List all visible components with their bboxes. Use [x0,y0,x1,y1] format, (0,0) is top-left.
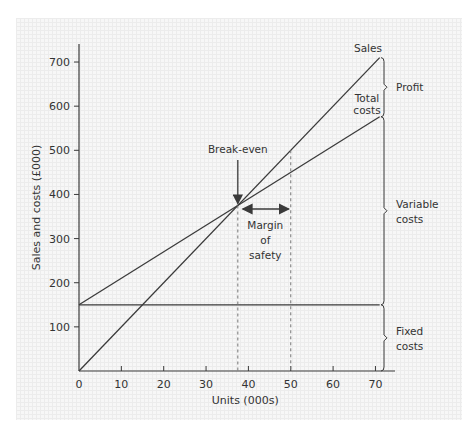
x-axis-label: Units (000s) [212,394,279,407]
y-tick-label: 400 [49,188,70,201]
y-tick-label: 200 [49,277,70,290]
y-tick-label: 300 [49,233,70,246]
total-costs-label: Total [354,92,380,104]
x-tick-label: 40 [241,378,255,391]
brace-fixed [381,305,387,371]
x-tick-label: 10 [114,378,128,391]
brace-label-fixed: Fixed [396,325,423,337]
y-tick-label: 600 [49,100,70,113]
y-tick-label: 700 [49,56,70,69]
brace-profit [381,58,387,117]
sales-label: Sales [354,42,382,54]
y-axis-label: Sales and costs (£000) [30,145,43,271]
margin-of-safety-label: safety [249,249,281,261]
brace-label-variable: costs [396,213,423,225]
break-even-label: Break-even [208,143,268,155]
brace-variable [381,117,387,305]
x-tick-label: 20 [157,378,171,391]
series-sales [79,58,380,371]
x-tick-label: 50 [284,378,298,391]
y-tick-label: 100 [49,321,70,334]
x-tick-label: 30 [199,378,213,391]
margin-of-safety-label: Margin [247,219,283,231]
x-tick-label: 70 [368,378,382,391]
x-tick-label: 60 [326,378,340,391]
x-tick-label: 0 [76,378,83,391]
total-costs-label: costs [353,104,380,116]
brace-label-variable: Variable [396,198,439,210]
brace-label-fixed: costs [396,340,423,352]
break-even-chart: 100200300400500600700010203040506070Unit… [0,0,476,435]
brace-label-profit: Profit [396,81,423,93]
margin-of-safety-label: of [260,234,270,246]
y-tick-label: 500 [49,144,70,157]
